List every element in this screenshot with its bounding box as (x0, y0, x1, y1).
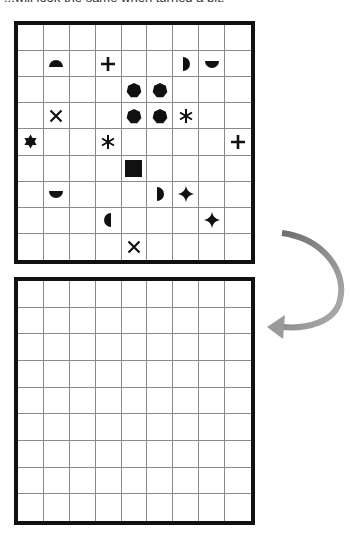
half-circle-bottom-icon (48, 186, 64, 202)
grid-cell[interactable] (44, 308, 70, 335)
grid-cell[interactable] (122, 334, 148, 361)
grid-cell[interactable] (18, 281, 44, 308)
grid-cell[interactable] (173, 388, 199, 415)
grid-cell[interactable] (70, 334, 96, 361)
grid-cell[interactable] (44, 441, 70, 468)
grid-cell[interactable] (44, 361, 70, 388)
grid-cell[interactable] (173, 494, 199, 521)
grid-cell[interactable] (44, 494, 70, 521)
grid-cell[interactable] (18, 494, 44, 521)
square-icon (125, 160, 142, 177)
grid-cell[interactable] (225, 468, 251, 495)
grid-cell[interactable] (225, 308, 251, 335)
grid-cell[interactable] (70, 281, 96, 308)
grid-cell (225, 77, 251, 103)
grid-cell (122, 103, 148, 129)
grid-cell[interactable] (122, 388, 148, 415)
grid-cell[interactable] (122, 414, 148, 441)
grid-cell (225, 234, 251, 260)
grid-cell[interactable] (147, 308, 173, 335)
plus-icon (230, 134, 246, 150)
grid-cell[interactable] (122, 308, 148, 335)
grid-cell[interactable] (44, 281, 70, 308)
grid-cell[interactable] (147, 388, 173, 415)
heptagon-icon (126, 108, 142, 124)
grid-cell[interactable] (18, 441, 44, 468)
grid-cell[interactable] (70, 308, 96, 335)
asterisk-icon (100, 134, 116, 150)
grid-cell[interactable] (70, 494, 96, 521)
grid-cell[interactable] (199, 468, 225, 495)
grid-cell[interactable] (18, 334, 44, 361)
grid-cell[interactable] (173, 468, 199, 495)
grid-cell (225, 129, 251, 155)
grid-cell[interactable] (199, 334, 225, 361)
grid-cell[interactable] (199, 494, 225, 521)
grid-cell[interactable] (96, 281, 122, 308)
grid-cell[interactable] (173, 334, 199, 361)
grid-cell (44, 234, 70, 260)
grid-cell[interactable] (18, 468, 44, 495)
grid-cell[interactable] (173, 441, 199, 468)
grid-cell (18, 208, 44, 234)
grid-cell[interactable] (96, 334, 122, 361)
grid-cell[interactable] (199, 414, 225, 441)
grid-cell[interactable] (96, 441, 122, 468)
grid-cell[interactable] (147, 334, 173, 361)
grid-cell[interactable] (225, 281, 251, 308)
grid-cell[interactable] (122, 494, 148, 521)
grid-cell[interactable] (225, 361, 251, 388)
grid-cell[interactable] (96, 361, 122, 388)
grid-cell[interactable] (96, 494, 122, 521)
grid-cell[interactable] (96, 388, 122, 415)
grid-cell[interactable] (122, 361, 148, 388)
grid-cell[interactable] (70, 468, 96, 495)
grid-cell (173, 51, 199, 77)
grid-cell[interactable] (173, 361, 199, 388)
grid-cell[interactable] (199, 388, 225, 415)
grid-cell[interactable] (96, 308, 122, 335)
grid-cell[interactable] (147, 414, 173, 441)
grid-cell[interactable] (18, 388, 44, 415)
grid-cell[interactable] (147, 441, 173, 468)
x-icon (127, 240, 141, 254)
grid-cell[interactable] (225, 388, 251, 415)
answer-grid[interactable] (14, 277, 255, 525)
grid-cell[interactable] (44, 388, 70, 415)
grid-cell (199, 156, 225, 182)
grid-cell[interactable] (199, 281, 225, 308)
grid-cell[interactable] (18, 308, 44, 335)
grid-cell (199, 51, 225, 77)
grid-cell (44, 77, 70, 103)
grid-cell[interactable] (147, 494, 173, 521)
grid-cell (147, 129, 173, 155)
grid-cell[interactable] (44, 334, 70, 361)
grid-cell[interactable] (70, 361, 96, 388)
grid-cell[interactable] (147, 281, 173, 308)
grid-cell[interactable] (199, 308, 225, 335)
grid-cell[interactable] (44, 414, 70, 441)
grid-cell[interactable] (18, 414, 44, 441)
grid-cell[interactable] (122, 468, 148, 495)
grid-cell[interactable] (70, 388, 96, 415)
grid-cell[interactable] (225, 334, 251, 361)
grid-cell[interactable] (173, 414, 199, 441)
grid-cell[interactable] (225, 441, 251, 468)
grid-cell[interactable] (70, 441, 96, 468)
grid-cell[interactable] (199, 441, 225, 468)
grid-cell[interactable] (147, 468, 173, 495)
grid-cell[interactable] (96, 468, 122, 495)
grid-cell[interactable] (70, 414, 96, 441)
grid-cell[interactable] (225, 494, 251, 521)
grid-cell[interactable] (96, 414, 122, 441)
grid-cell[interactable] (173, 281, 199, 308)
grid-cell[interactable] (18, 361, 44, 388)
grid-cell[interactable] (147, 361, 173, 388)
grid-cell (147, 51, 173, 77)
grid-cell[interactable] (44, 468, 70, 495)
grid-cell[interactable] (225, 414, 251, 441)
grid-cell[interactable] (122, 441, 148, 468)
grid-cell[interactable] (199, 361, 225, 388)
grid-cell[interactable] (122, 281, 148, 308)
grid-cell[interactable] (173, 308, 199, 335)
